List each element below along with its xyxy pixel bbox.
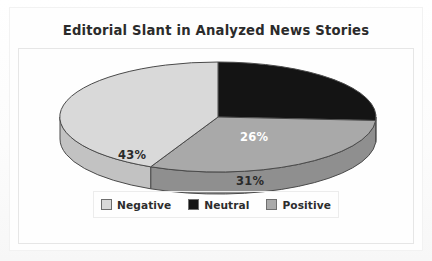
slice-label-positive: 31% bbox=[236, 174, 264, 188]
legend-item-positive[interactable]: Positive bbox=[266, 199, 331, 211]
slice-label-neutral: 26% bbox=[240, 130, 268, 144]
legend-label-negative: Negative bbox=[117, 199, 171, 211]
legend-swatch-positive bbox=[266, 199, 277, 210]
page-title: Editorial Slant in Analyzed News Stories bbox=[0, 23, 432, 38]
chart-canvas: Editorial Slant in Analyzed News Stories… bbox=[0, 0, 432, 261]
legend-swatch-neutral bbox=[188, 199, 199, 210]
slice-label-negative: 43% bbox=[118, 148, 146, 162]
legend-item-negative[interactable]: Negative bbox=[101, 199, 171, 211]
pie-slice-neutral bbox=[218, 62, 376, 121]
legend-item-neutral[interactable]: Neutral bbox=[188, 199, 249, 211]
chart-legend: Negative Neutral Positive bbox=[93, 191, 339, 218]
legend-swatch-negative bbox=[101, 199, 112, 210]
legend-label-positive: Positive bbox=[282, 199, 331, 211]
legend-label-neutral: Neutral bbox=[204, 199, 249, 211]
